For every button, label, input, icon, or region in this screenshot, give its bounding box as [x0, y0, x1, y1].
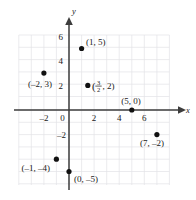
scatter-plot-svg: y x –2 0 2 4 6 6 4 2 –2 (1, 5) (–2, 3) (… [0, 0, 196, 200]
point-label--2-3: (–2, 3) [28, 79, 52, 89]
point-label-5-0: (5, 0) [121, 96, 141, 106]
x-tick-label-6: 6 [142, 113, 147, 123]
fraction-numerator: 3 [97, 79, 100, 86]
y-tick-label-4: 4 [59, 56, 64, 66]
fraction-denominator: 2 [97, 86, 100, 93]
data-point-1-5[interactable] [79, 46, 84, 51]
point-label--1--4: (–1, –4) [22, 163, 51, 173]
x-axis-label: x [185, 105, 190, 115]
data-point-3over2-2[interactable] [85, 83, 90, 88]
x-tick-label-2: 2 [92, 113, 97, 123]
data-point-0--5[interactable] [66, 169, 71, 174]
x-tick-label-0: 0 [60, 113, 65, 123]
data-point-5-0[interactable] [129, 107, 134, 112]
x-tick-label-4: 4 [117, 113, 122, 123]
coordinate-plane-figure: y x –2 0 2 4 6 6 4 2 –2 (1, 5) (–2, 3) (… [0, 0, 196, 200]
point-label-1-5: (1, 5) [86, 37, 106, 47]
data-point-7--2[interactable] [154, 132, 159, 137]
y-axis-label: y [71, 6, 76, 16]
data-point--1--4[interactable] [54, 157, 59, 162]
point-label-3over2-2-rest: , 2) [103, 81, 115, 91]
point-label-7--2: (7, –2) [140, 138, 164, 148]
y-tick-label--2: –2 [56, 130, 66, 140]
y-tick-label-6: 6 [59, 32, 64, 42]
y-tick-label-2: 2 [59, 81, 64, 91]
x-tick-label--2: –2 [38, 113, 48, 123]
point-label-0--5: (0, –5) [74, 174, 98, 184]
data-point--2-3[interactable] [41, 71, 46, 76]
